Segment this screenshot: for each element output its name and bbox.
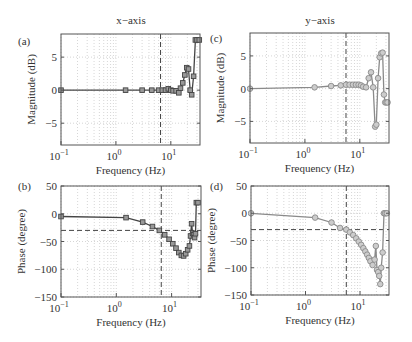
data-point-square — [180, 81, 185, 86]
data-point-circle — [368, 69, 374, 75]
y-axis-label: Phase (degree) — [15, 209, 28, 274]
y-tick-label: 0 — [241, 83, 247, 95]
data-point-circle — [380, 50, 386, 56]
data-point-square — [149, 88, 154, 93]
x-tick-label: 100 — [107, 300, 122, 314]
column-title-x-axis: x−axis — [116, 14, 145, 26]
data-point-square — [170, 241, 175, 246]
x-tick-label: 100 — [106, 148, 121, 162]
y-tick-label: −50 — [230, 235, 248, 247]
y-tick-label: 0 — [52, 208, 58, 220]
y-tick-label: 0 — [242, 207, 248, 219]
x-tick-label: 10−1 — [238, 146, 258, 160]
data-point-square — [189, 221, 194, 226]
data-point-circle — [312, 85, 318, 91]
data-point-square — [178, 86, 183, 91]
y-axis-label: Phase (degree) — [205, 208, 218, 273]
panel-label: (d) — [210, 180, 223, 193]
x-tick-label: 101 — [162, 300, 177, 314]
grid — [61, 186, 201, 297]
chart-panel-d: −150−100−5005010−1100101Frequency (Hz)Ph… — [205, 180, 390, 327]
y-tick-label: −100 — [224, 262, 247, 274]
data-point-square — [124, 215, 129, 220]
data-point-square — [140, 220, 145, 225]
data-point-circle — [378, 265, 384, 271]
y-tick-label: −5 — [234, 115, 246, 127]
data-point-circle — [377, 281, 383, 287]
data-point-circle — [337, 225, 343, 231]
y-tick-label: 50 — [236, 180, 248, 192]
y-tick-label: 5 — [241, 50, 247, 62]
data-point-square — [167, 237, 172, 242]
x-tick-label: 101 — [350, 146, 365, 160]
data-point-square — [177, 91, 182, 96]
chart-panel-a: −50510−1100101Frequency (Hz)Magnitude (d… — [18, 34, 202, 177]
data-point-square — [140, 88, 145, 93]
x-tick-label: 10−1 — [49, 148, 69, 162]
data-point-square — [188, 88, 193, 93]
data-series — [59, 38, 202, 97]
x-axis-label: Frequency (Hz) — [96, 316, 166, 329]
x-tick-label: 101 — [351, 298, 366, 312]
data-point-square — [193, 231, 198, 236]
x-tick-label: 100 — [295, 146, 310, 160]
grid — [251, 186, 389, 295]
data-point-square — [186, 67, 191, 72]
panel-label: (b) — [18, 180, 31, 193]
panel-label: (c) — [210, 32, 223, 45]
column-title-y-axis: y−axis — [305, 14, 334, 26]
data-point-square — [191, 74, 196, 79]
data-series — [59, 200, 201, 258]
data-point-circle — [372, 257, 378, 263]
chart-panel-b: −150−100−5005010−1100101Frequency (Hz)Ph… — [15, 180, 201, 329]
figure: x−axis y−axis −50510−1100101Frequency (H… — [0, 0, 412, 342]
data-point-square — [189, 92, 194, 97]
data-point-circle — [385, 100, 391, 106]
x-axis-label: Frequency (Hz) — [96, 164, 166, 177]
data-series — [247, 50, 390, 130]
data-point-circle — [370, 85, 376, 91]
data-point-circle — [374, 122, 380, 128]
data-point-square — [187, 244, 192, 249]
data-point-square — [157, 228, 162, 233]
data-point-circle — [329, 220, 335, 226]
data-point-square — [174, 246, 179, 251]
chart-panel-c: −50510−1100101Frequency (Hz)Magnitude (d… — [210, 32, 390, 175]
data-point-circle — [380, 250, 386, 256]
data-series — [248, 210, 389, 286]
data-point-square — [197, 38, 202, 43]
y-tick-label: 0 — [52, 84, 58, 96]
x-tick-label: 100 — [296, 298, 311, 312]
panel-label: (a) — [18, 35, 31, 48]
data-point-circle — [370, 262, 376, 268]
data-point-circle — [328, 83, 334, 89]
data-point-square — [196, 200, 201, 205]
y-tick-label: 5 — [52, 51, 58, 63]
y-axis-label: Magnitude (dB) — [214, 52, 227, 123]
data-point-circle — [366, 75, 372, 81]
y-tick-label: −5 — [45, 117, 57, 129]
data-point-square — [123, 88, 128, 93]
x-tick-label: 10−1 — [239, 298, 259, 312]
data-point-circle — [375, 75, 381, 81]
x-axis-label: Frequency (Hz) — [285, 314, 355, 327]
x-axis-label: Frequency (Hz) — [285, 162, 355, 175]
data-point-circle — [338, 83, 344, 89]
data-point-circle — [373, 243, 379, 249]
y-tick-label: −50 — [40, 236, 58, 248]
data-point-square — [162, 233, 167, 238]
data-point-circle — [381, 92, 387, 98]
y-axis-label: Magnitude (dB) — [25, 54, 38, 125]
data-point-square — [150, 224, 155, 229]
data-point-square — [183, 73, 188, 78]
data-point-circle — [312, 215, 318, 221]
x-tick-label: 101 — [161, 148, 176, 162]
x-tick-label: 10−1 — [49, 300, 69, 314]
data-point-circle — [363, 85, 369, 91]
data-point-circle — [376, 273, 382, 279]
y-tick-label: −100 — [34, 263, 57, 275]
y-tick-label: 50 — [46, 180, 58, 192]
